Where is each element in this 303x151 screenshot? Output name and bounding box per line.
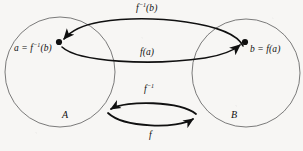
diagram-canvas [0,0,303,151]
point-b-dot [242,39,248,45]
set-a-circle [5,17,115,127]
arrow-f-inverse-top-label-tail: (b) [146,3,157,13]
point-a-label-tail: (b) [40,43,51,53]
arrow-f-lens [108,113,193,126]
point-a-label: a = f−1(b) [14,44,52,54]
function-inverse-diagram: a = f−1(b) b = f(a) f−1(b) f(a) f−1 f A … [0,0,303,151]
arrow-f-inverse-lens-label-exponent: −1 [147,83,154,89]
arrow-f-inverse-top-label-exponent: −1 [139,2,146,8]
arrow-f-middle-label: f(a) [140,48,154,58]
arrow-f-inverse-lens-label: f−1 [144,85,154,95]
set-a-label: A [62,110,68,120]
point-a-label-lead: a = f [14,43,33,53]
arrow-f-inverse-top-label: f−1(b) [136,4,157,14]
point-b-label: b = f(a) [250,45,280,55]
set-b-circle [192,19,300,127]
arrow-f-inverse-lens [111,103,196,114]
set-b-label: B [231,110,237,120]
point-a-dot [56,39,62,45]
arrow-f-inverse-top [64,19,243,46]
arrow-f-lens-label: f [149,131,152,141]
